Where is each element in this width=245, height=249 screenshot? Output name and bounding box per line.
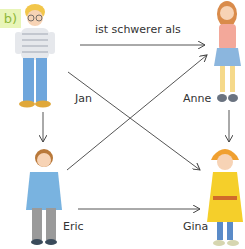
name-eric: Eric: [63, 220, 84, 233]
relation-arrows: [0, 0, 245, 249]
weight-comparison-diagram: b) ist schwerer als: [0, 0, 245, 249]
arrow-jan-gina: [68, 72, 200, 170]
name-jan: Jan: [75, 92, 92, 105]
arrow-eric-anne: [67, 55, 207, 170]
name-gina: Gina: [183, 220, 208, 233]
name-anne: Anne: [183, 92, 211, 105]
